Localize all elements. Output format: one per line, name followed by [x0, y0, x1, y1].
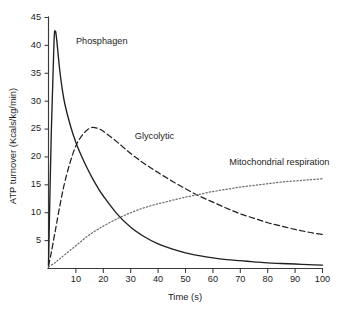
series-label-mitochondrial-respiration: Mitochondrial respiration	[229, 157, 329, 167]
x-tick-label: 80	[263, 274, 273, 284]
x-axis-title: Time (s)	[168, 291, 202, 302]
y-tick-label: 35	[31, 68, 41, 78]
y-tick-label: 40	[31, 40, 41, 50]
chart-figure: 51015202530354045 102030405060708090100 …	[0, 0, 342, 317]
y-tick-label: 30	[31, 96, 41, 106]
y-tick-label: 25	[31, 123, 41, 133]
x-tick-label: 20	[98, 274, 108, 284]
x-tick-label: 60	[208, 274, 218, 284]
x-tick-label: 100	[315, 274, 330, 284]
series-label-glycolytic: Glycolytic	[135, 131, 175, 141]
y-tick-label: 20	[31, 151, 41, 161]
y-tick-label: 15	[31, 179, 41, 189]
y-tick-label: 45	[31, 12, 41, 22]
y-tick-label: 10	[31, 207, 41, 217]
x-tick-label: 50	[180, 274, 190, 284]
x-tick-label: 30	[126, 274, 136, 284]
x-tick-label: 70	[235, 274, 245, 284]
x-tick-label: 90	[290, 274, 300, 284]
y-axis-title: ATP turnover (Kcals/kg/min)	[7, 88, 18, 204]
y-tick-label: 5	[36, 235, 41, 245]
x-tick-label: 40	[153, 274, 163, 284]
x-tick-label: 10	[71, 274, 81, 284]
series-label-phosphagen: Phosphagen	[76, 36, 128, 46]
atp-turnover-line-chart: 51015202530354045 102030405060708090100 …	[0, 0, 342, 317]
